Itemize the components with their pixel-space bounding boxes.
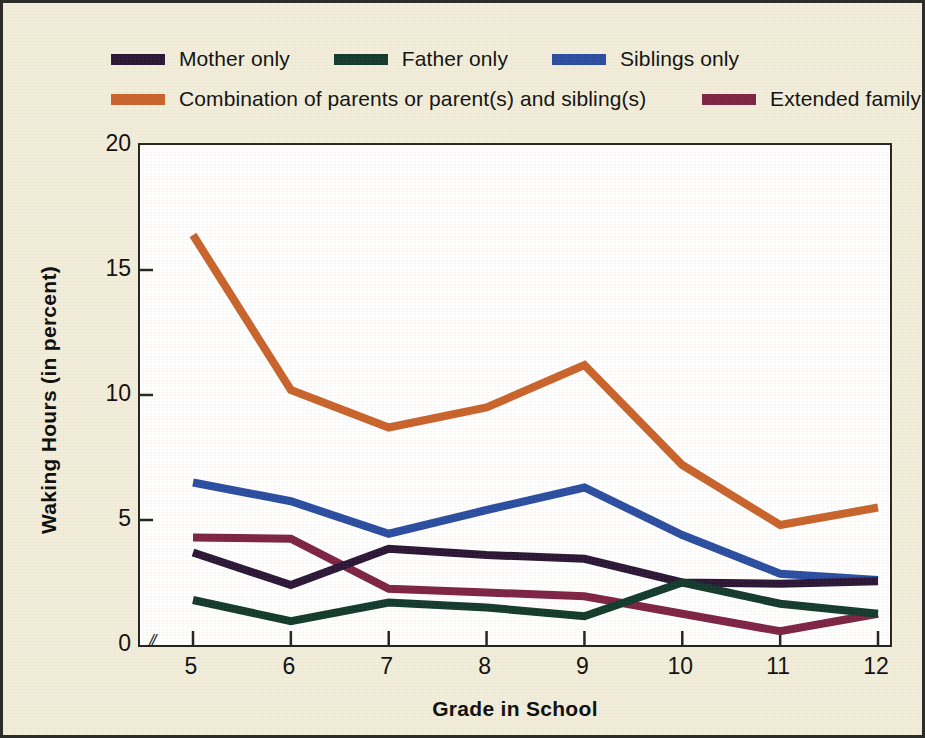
legend-row-1: Mother only Father only Siblings only	[111, 39, 921, 79]
legend-label-father-only: Father only	[402, 47, 508, 71]
x-tick-label: 9	[552, 653, 612, 680]
x-axis-tick-labels: 56789101112	[138, 653, 892, 687]
legend-swatch-combination	[111, 94, 165, 105]
series-line	[193, 483, 878, 581]
axis-break-marker: //	[149, 631, 154, 651]
legend-item-extended-family: Extended family	[702, 87, 921, 111]
series-line	[193, 235, 878, 525]
y-tick-label: 15	[71, 255, 131, 282]
legend-item-mother-only: Mother only	[111, 47, 290, 71]
x-tick-label: 8	[455, 653, 515, 680]
x-tick-label: 5	[161, 653, 221, 680]
y-tick-label: 0	[71, 630, 131, 657]
x-tick-label: 10	[650, 653, 710, 680]
series-line	[193, 583, 878, 622]
series-line	[193, 549, 878, 585]
legend-item-combination: Combination of parents or parent(s) and …	[111, 87, 646, 111]
legend-item-siblings-only: Siblings only	[552, 47, 739, 71]
y-tick-label: 10	[71, 380, 131, 407]
legend-swatch-father-only	[334, 54, 388, 65]
x-tick-label: 6	[259, 653, 319, 680]
chart-figure: Mother only Father only Siblings only Co…	[0, 0, 925, 738]
legend-label-siblings-only: Siblings only	[620, 47, 739, 71]
legend-label-combination: Combination of parents or parent(s) and …	[179, 87, 646, 111]
x-tick-label: 11	[748, 653, 808, 680]
y-axis-tick-labels: 05101520	[63, 143, 131, 643]
y-tick-label: 20	[71, 130, 131, 157]
legend-label-mother-only: Mother only	[179, 47, 290, 71]
x-tick-label: 7	[357, 653, 417, 680]
plot-area	[138, 143, 892, 647]
chart-legend: Mother only Father only Siblings only Co…	[111, 39, 921, 119]
legend-swatch-siblings-only	[552, 54, 606, 65]
chart-lines	[140, 145, 890, 645]
legend-label-extended-family: Extended family	[770, 87, 921, 111]
y-tick-label: 5	[71, 505, 131, 532]
legend-swatch-extended-family	[702, 94, 756, 105]
x-tick-label: 12	[846, 653, 906, 680]
x-axis-title: Grade in School	[138, 697, 892, 721]
legend-row-2: Combination of parents or parent(s) and …	[111, 79, 921, 119]
legend-item-father-only: Father only	[334, 47, 508, 71]
legend-swatch-mother-only	[111, 54, 165, 65]
y-axis-title: Waking Hours (in percent)	[37, 250, 61, 550]
